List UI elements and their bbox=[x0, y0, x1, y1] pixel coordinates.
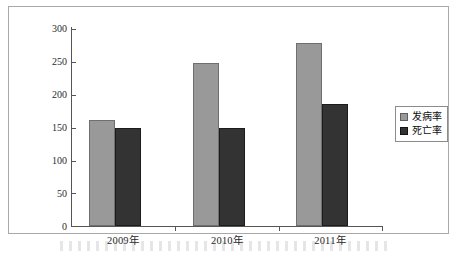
x-axis-tick bbox=[382, 226, 383, 231]
x-axis-tick bbox=[175, 226, 176, 231]
bar-group-2010 bbox=[175, 27, 279, 226]
bar-incidence-2009 bbox=[89, 120, 115, 226]
y-axis-tick-label: 300 bbox=[33, 24, 67, 34]
y-axis-tick-label: 50 bbox=[33, 189, 67, 199]
legend-label-mortality: 死亡率 bbox=[412, 125, 442, 137]
bar-group-2011 bbox=[278, 27, 382, 226]
chart-frame: 300 250 200 150 100 50 0 bbox=[8, 6, 449, 234]
x-axis-line bbox=[71, 226, 383, 227]
legend-swatch-icon bbox=[400, 127, 408, 135]
bar-group-2009 bbox=[71, 27, 175, 226]
bars-layer bbox=[71, 27, 383, 226]
bar-incidence-2011 bbox=[296, 43, 322, 226]
legend-item-mortality: 死亡率 bbox=[400, 124, 442, 138]
legend-swatch-icon bbox=[400, 113, 408, 121]
scan-artifact bbox=[60, 241, 390, 251]
bar-incidence-2010 bbox=[193, 63, 219, 226]
chart-legend: 发病率 死亡率 bbox=[395, 106, 448, 142]
y-axis-tick-label: 0 bbox=[33, 222, 67, 232]
bar-mortality-2011 bbox=[322, 104, 348, 226]
legend-item-incidence: 发病率 bbox=[400, 110, 442, 124]
y-axis-tick-label: 150 bbox=[33, 123, 67, 133]
y-axis-tick-label: 250 bbox=[33, 57, 67, 67]
bar-mortality-2009 bbox=[115, 128, 141, 226]
bar-mortality-2010 bbox=[219, 128, 245, 227]
bar-chart-figure: 300 250 200 150 100 50 0 bbox=[0, 0, 459, 257]
x-axis-tick bbox=[279, 226, 280, 231]
y-axis-tick-label: 100 bbox=[33, 156, 67, 166]
y-axis-tick-label: 200 bbox=[33, 90, 67, 100]
legend-label-incidence: 发病率 bbox=[412, 111, 442, 123]
